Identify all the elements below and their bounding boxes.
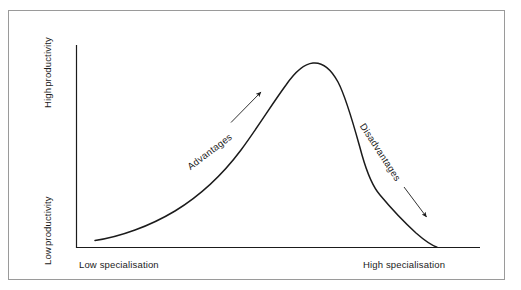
y-axis-low-label-line1: Low bbox=[42, 247, 53, 265]
y-axis-high-label: High productivity bbox=[42, 37, 53, 108]
y-axis-high-label-line1: High bbox=[42, 88, 53, 108]
figure-root: High productivity Low productivity Low s… bbox=[0, 0, 521, 290]
y-axis-low-label: Low productivity bbox=[42, 196, 53, 265]
x-axis-high-label: High specialisation bbox=[363, 260, 445, 271]
advantages-arrow-icon bbox=[231, 92, 261, 123]
x-axis-low-label: Low specialisation bbox=[79, 260, 159, 271]
disadvantages-arrow-icon bbox=[404, 187, 427, 217]
y-axis-low-label-line2: productivity bbox=[42, 196, 53, 246]
y-axis-high-label-line2: productivity bbox=[42, 37, 53, 87]
productivity-specialisation-chart bbox=[0, 0, 521, 290]
